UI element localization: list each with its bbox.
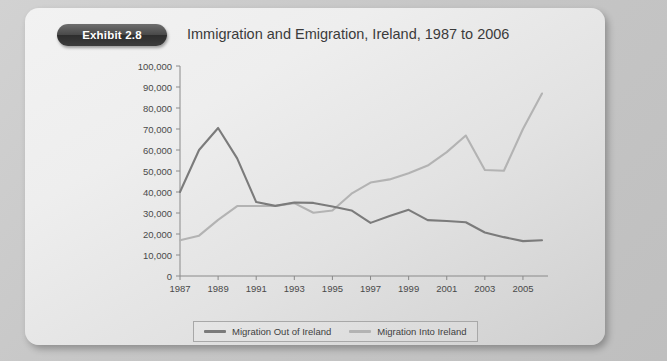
x-tick-label: 1991 (246, 283, 267, 294)
screenshot-root: Exhibit 2.8 Immigration and Emigration, … (0, 0, 667, 361)
legend-label-out: Migration Out of Ireland (232, 326, 331, 337)
x-tick-label: 1993 (284, 283, 305, 294)
x-tick-label: 1999 (398, 283, 419, 294)
y-tick-label: 60,000 (143, 145, 172, 156)
chart-legend: Migration Out of Ireland Migration Into … (193, 321, 478, 342)
x-tick-label: 1987 (169, 283, 190, 294)
x-tick-label: 2001 (436, 283, 457, 294)
legend-item-out: Migration Out of Ireland (204, 326, 331, 337)
chart-plot-area: 100,00090,00080,00070,00060,00050,00040,… (25, 8, 605, 345)
y-tick-label: 10,000 (143, 250, 172, 261)
y-tick-label: 50,000 (143, 166, 172, 177)
series-line-into (180, 94, 542, 241)
line-chart: 100,00090,00080,00070,00060,00050,00040,… (25, 8, 605, 345)
y-tick-label: 20,000 (143, 229, 172, 240)
x-tick-label: 2003 (474, 283, 495, 294)
legend-swatch-out (204, 330, 226, 333)
legend-item-into: Migration Into Ireland (349, 326, 466, 337)
y-tick-label: 40,000 (143, 187, 172, 198)
x-tick-label: 1995 (322, 283, 343, 294)
y-tick-label: 90,000 (143, 82, 172, 93)
y-tick-label: 30,000 (143, 208, 172, 219)
x-tick-label: 1989 (208, 283, 229, 294)
x-tick-label: 1997 (360, 283, 381, 294)
y-tick-label: 70,000 (143, 124, 172, 135)
y-tick-label: 80,000 (143, 103, 172, 114)
series-line-out (180, 128, 542, 241)
y-tick-label: 100,000 (138, 61, 172, 72)
y-tick-label: 0 (167, 271, 172, 282)
legend-swatch-into (349, 330, 371, 333)
exhibit-card: Exhibit 2.8 Immigration and Emigration, … (25, 8, 605, 345)
x-tick-label: 2005 (512, 283, 533, 294)
legend-label-into: Migration Into Ireland (377, 326, 466, 337)
